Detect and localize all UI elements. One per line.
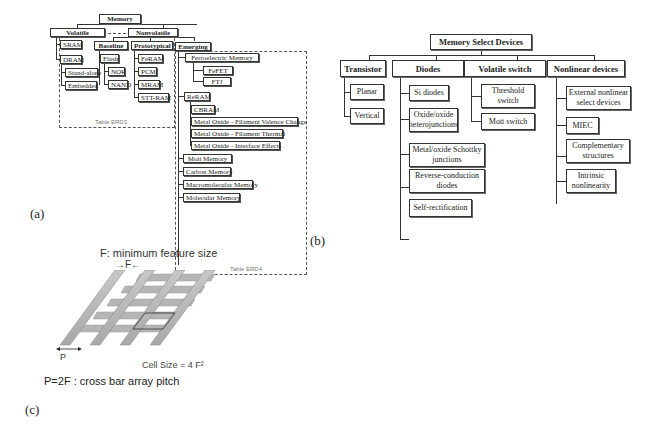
metal-oxide-valence-box: Metal Oxide - Filament Valence Change bbox=[191, 117, 298, 126]
nand-box: NAND bbox=[108, 80, 128, 89]
mram-box: MRAM bbox=[138, 80, 160, 89]
table-erd4-region bbox=[175, 51, 307, 275]
vertical-box: Vertical bbox=[350, 108, 384, 124]
pcm-box: PCM bbox=[138, 67, 157, 76]
schottky-junctions-box: Metal/oxide Schottky junctions bbox=[409, 143, 485, 167]
dram-box: DRAM bbox=[60, 55, 82, 64]
memory-root-box: Memory bbox=[99, 14, 141, 24]
feram-box: FeRAM bbox=[138, 54, 163, 63]
external-nonlinear-box: External nonlinear select devices bbox=[566, 86, 631, 110]
embedded-box: Embedded bbox=[65, 81, 97, 90]
table-erd3-caption: Table ERD3 bbox=[95, 119, 127, 125]
volatile-switch-box: Volatile switch bbox=[464, 60, 546, 77]
si-diodes-box: Si diodes bbox=[409, 85, 449, 101]
molecular-memory-box: Molecular Memory bbox=[183, 193, 240, 202]
transistor-box: Transistor bbox=[340, 60, 386, 77]
ferroelectric-memory-box: Ferroelectric Memory bbox=[185, 53, 259, 62]
pitch-caption: P=2F : cross bar array pitch bbox=[44, 375, 179, 387]
reverse-conduction-diodes-box: Reverse-conduction diodes bbox=[409, 169, 485, 193]
panel-c-label: (c) bbox=[25, 402, 39, 418]
macromolecular-memory-box: Macromolecular Memory bbox=[183, 180, 253, 189]
mott-memory-box: Mott Memory bbox=[183, 154, 232, 163]
nonvolatile-box: Nonvolatile bbox=[128, 28, 178, 37]
miec-box: MIEC bbox=[566, 117, 599, 134]
panel-a-label: (a) bbox=[30, 206, 44, 222]
mott-switch-box: Mott switch bbox=[481, 113, 535, 130]
cbram-box: CBRAM bbox=[191, 105, 215, 114]
cell-size-label: Cell Size = 4 F² bbox=[142, 360, 204, 370]
threshold-switch-box: Threshold switch bbox=[481, 84, 535, 108]
intrinsic-nonlinearity-box: Intrinsic nonlinearity bbox=[566, 169, 616, 193]
nor-box: NOR bbox=[108, 67, 125, 76]
memory-select-devices-box: Memory Select Devices bbox=[430, 34, 532, 50]
p-marker: P bbox=[60, 352, 66, 362]
metal-oxide-interface-box: Metal Oxide - Interface Effects bbox=[191, 141, 280, 150]
panel-b-label: (b) bbox=[310, 233, 325, 249]
self-rectification-box: Self-rectification bbox=[409, 199, 472, 217]
stand-alone-box: Stand-alone bbox=[65, 68, 98, 77]
baseline-box: Baseline bbox=[94, 41, 128, 50]
fefet-box: FeFET bbox=[203, 66, 233, 75]
flash-box: Flash bbox=[100, 54, 119, 63]
oxide-heterojunctions-box: Oxide/oxide heterojunctions bbox=[409, 108, 458, 132]
nonlinear-devices-box: Nonlinear devices bbox=[547, 60, 625, 77]
emerging-box: Emerging bbox=[175, 42, 211, 51]
carbon-memory-box: Carbon Memory bbox=[183, 167, 231, 176]
stt-ram-box: STT-RAM bbox=[138, 93, 169, 102]
metal-oxide-thermal-box: Metal Oxide - Filament Thermal bbox=[191, 129, 283, 138]
reram-box: ReRAM bbox=[184, 92, 210, 101]
complementary-structures-box: Complementary structures bbox=[566, 139, 630, 163]
ftj-box: FTJ bbox=[203, 77, 231, 86]
feature-size-title: F: minimum feature size bbox=[100, 247, 217, 259]
volatile-box: Volatile bbox=[50, 28, 105, 37]
f-marker: →F← bbox=[115, 259, 141, 270]
sram-box: SRAM bbox=[60, 40, 82, 49]
f-label: F bbox=[125, 259, 131, 270]
diodes-box: Diodes bbox=[392, 60, 464, 77]
planar-box: Planar bbox=[350, 84, 384, 100]
prototypical-box: Prototypical bbox=[131, 41, 173, 50]
crossbar-array-illustration bbox=[45, 270, 245, 360]
